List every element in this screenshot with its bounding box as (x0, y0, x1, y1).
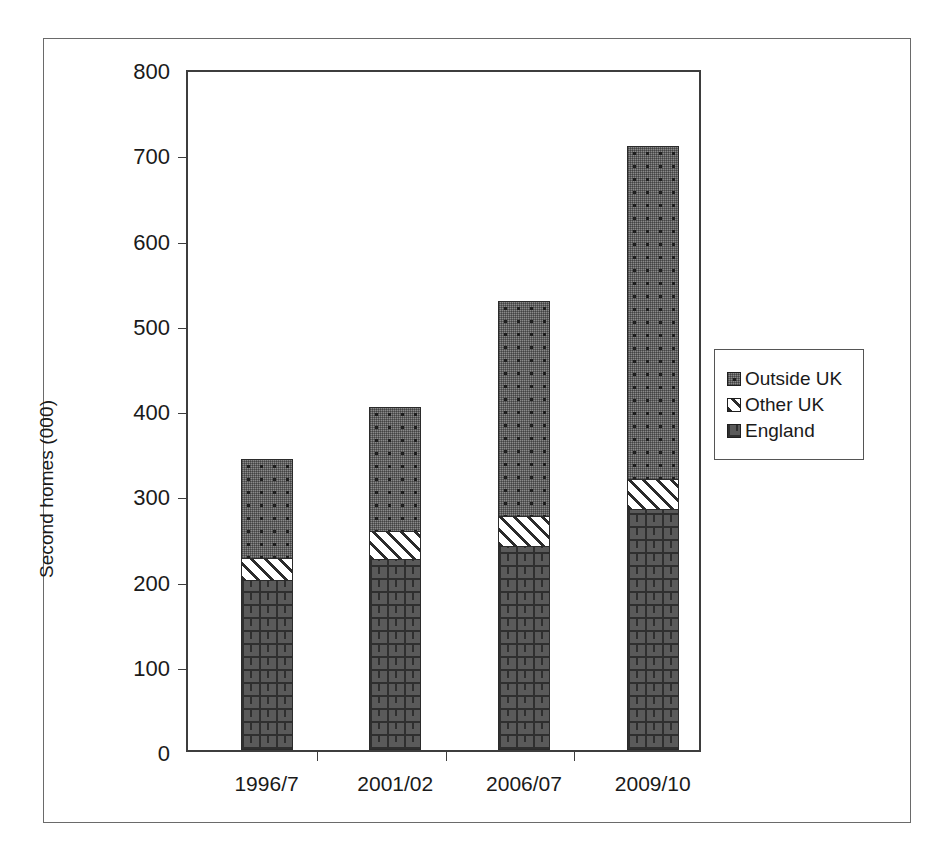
y-axis-tick (178, 157, 188, 158)
bar-segment-england (369, 559, 421, 750)
x-axis-label: 2006/07 (486, 772, 562, 796)
y-axis-tick (178, 243, 188, 244)
bar-segment-other-uk (498, 516, 550, 547)
bar-2009-10 (627, 146, 679, 750)
bar-segment-outside-uk (627, 146, 679, 479)
y-axis-label: 300 (100, 485, 170, 511)
y-axis-tick (178, 498, 188, 499)
chart-legend: Outside UKOther UKEngland (714, 349, 864, 460)
y-axis-label: 0 (100, 741, 170, 767)
bar-2001-02 (369, 407, 421, 750)
y-axis-label: 200 (100, 571, 170, 597)
x-axis-label: 2001/02 (357, 772, 433, 796)
y-axis-label: 400 (100, 400, 170, 426)
legend-item-england[interactable]: England (727, 421, 853, 440)
y-axis-title: Second homes (000) (36, 339, 58, 639)
bar-segment-outside-uk (498, 301, 550, 516)
legend-label: Other UK (745, 395, 824, 414)
legend-label: Outside UK (745, 369, 842, 388)
stipple-swatch (727, 372, 741, 386)
x-axis-label: 1996/7 (234, 772, 298, 796)
bar-1996-7 (241, 459, 293, 750)
y-axis-label: 600 (100, 230, 170, 256)
y-axis-tick (178, 413, 188, 414)
y-axis-label: 500 (100, 315, 170, 341)
y-axis-tick (178, 328, 188, 329)
x-axis-tick (446, 750, 447, 761)
x-axis-tick (317, 750, 318, 761)
bar-2006-07 (498, 301, 550, 750)
x-axis-label: 2009/10 (615, 772, 691, 796)
x-axis-tick (574, 750, 575, 761)
legend-label: England (745, 421, 815, 440)
bar-segment-other-uk (241, 558, 293, 579)
y-axis-tick (178, 669, 188, 670)
bar-segment-england (241, 580, 293, 751)
y-axis-label: 800 (100, 59, 170, 85)
hatch-swatch (727, 398, 741, 412)
legend-item-other-uk[interactable]: Other UK (727, 395, 853, 414)
bar-segment-england (627, 509, 679, 750)
bar-segment-outside-uk (369, 407, 421, 531)
bar-segment-england (498, 546, 550, 750)
plot-area: 0100200300400500600700800 1996/72001/022… (186, 70, 701, 752)
legend-item-outside-uk[interactable]: Outside UK (727, 369, 853, 388)
y-axis-label: 100 (100, 656, 170, 682)
bar-segment-outside-uk (241, 459, 293, 558)
bar-segment-other-uk (627, 479, 679, 509)
brick-swatch (727, 424, 741, 438)
bar-segment-other-uk (369, 531, 421, 559)
y-axis-tick (178, 584, 188, 585)
y-axis-label: 700 (100, 144, 170, 170)
